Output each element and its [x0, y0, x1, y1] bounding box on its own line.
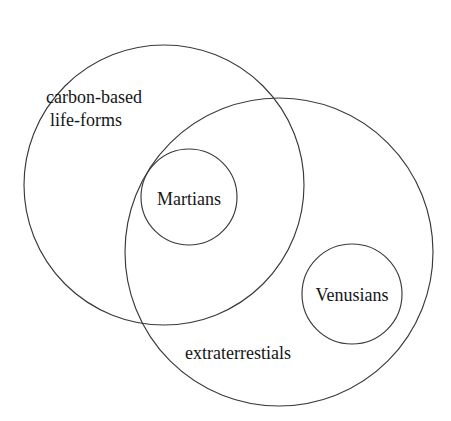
set-label-line-2: life-forms	[46, 109, 142, 132]
set-label-carbon-based-life-forms: carbon-based life-forms	[46, 86, 142, 132]
set-label-line-1: carbon-based	[46, 86, 142, 109]
set-label-martians: Martians	[141, 188, 237, 211]
euler-diagram: carbon-based life-forms Martians Venusia…	[0, 0, 451, 421]
set-label-venusians: Venusians	[300, 284, 404, 307]
set-label-extraterrestials: extraterrestials	[185, 342, 333, 365]
